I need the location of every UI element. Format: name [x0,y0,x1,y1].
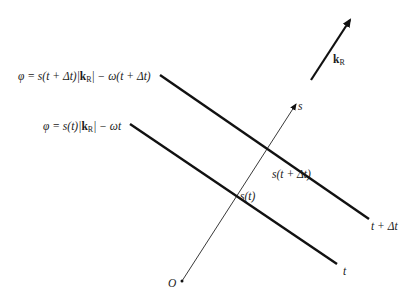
s-axis-label: s [298,100,303,112]
origin-label: O [168,277,177,289]
wavefront-diagram: kR s O φ = s(t + Δt)|kR| − ω(t + Δt) t +… [0,0,417,299]
time-label-t: t [343,265,347,277]
phase-equation-t: φ = s(t)|kR| − ωt [43,120,122,134]
intersection-label-t-plus-dt: s(t + Δt) [272,168,311,181]
time-label-t-plus-dt: t + Δt [371,220,398,232]
k-vector-label: kR [333,53,345,67]
origin-point [181,280,184,283]
phase-equation-t-plus-dt: φ = s(t + Δt)|kR| − ω(t + Δt) [18,70,151,84]
intersection-label-t: s(t) [240,190,256,203]
wavefront-t-plus-dt [160,75,369,219]
k-vector-arrow [311,20,350,80]
wavefront-t [130,124,337,264]
